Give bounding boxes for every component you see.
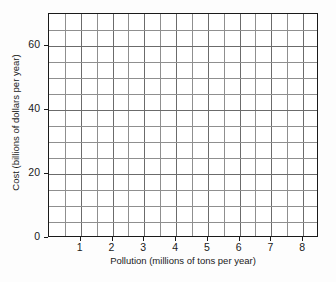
x-tick-label: 2 [97, 241, 127, 253]
gridlines [49, 14, 317, 236]
gridline-vertical [144, 14, 145, 236]
gridline-horizontal [49, 30, 317, 31]
gridline-horizontal [49, 94, 317, 95]
x-tick-label: 4 [160, 241, 190, 253]
gridline-horizontal [49, 126, 317, 127]
gridline-vertical [192, 14, 193, 236]
gridline-horizontal [49, 190, 317, 191]
gridline-horizontal [49, 206, 317, 207]
chart-figure: 12345678 0204060 Pollution (millions of … [0, 0, 336, 282]
y-axis-title: Cost (billions of dollars per year) [10, 11, 21, 235]
y-tick-mark [44, 45, 48, 46]
gridline-horizontal [49, 174, 317, 175]
x-tick-label: 1 [65, 241, 95, 253]
x-tick-label: 5 [192, 241, 222, 253]
gridline-vertical [208, 14, 209, 236]
gridline-vertical [128, 14, 129, 236]
gridline-vertical [81, 14, 82, 236]
gridline-horizontal [49, 110, 317, 111]
gridline-horizontal [49, 62, 317, 63]
gridline-horizontal [49, 158, 317, 159]
x-tick-label: 8 [287, 241, 317, 253]
gridline-vertical [160, 14, 161, 236]
y-tick-mark [44, 173, 48, 174]
x-axis-title: Pollution (millions of tons per year) [48, 255, 318, 266]
gridline-horizontal [49, 78, 317, 79]
gridline-vertical [113, 14, 114, 236]
gridline-vertical [303, 14, 304, 236]
gridline-vertical [97, 14, 98, 236]
gridline-horizontal [49, 142, 317, 143]
gridline-vertical [287, 14, 288, 236]
gridline-vertical [176, 14, 177, 236]
gridline-horizontal [49, 222, 317, 223]
y-tick-mark [44, 109, 48, 110]
gridline-vertical [224, 14, 225, 236]
x-tick-label: 3 [128, 241, 158, 253]
x-tick-label: 7 [255, 241, 285, 253]
x-tick-label: 6 [224, 241, 254, 253]
y-tick-mark [44, 237, 48, 238]
gridline-horizontal [49, 46, 317, 47]
gridline-vertical [65, 14, 66, 236]
plot-area [48, 13, 318, 237]
gridline-vertical [271, 14, 272, 236]
gridline-vertical [240, 14, 241, 236]
gridline-vertical [255, 14, 256, 236]
